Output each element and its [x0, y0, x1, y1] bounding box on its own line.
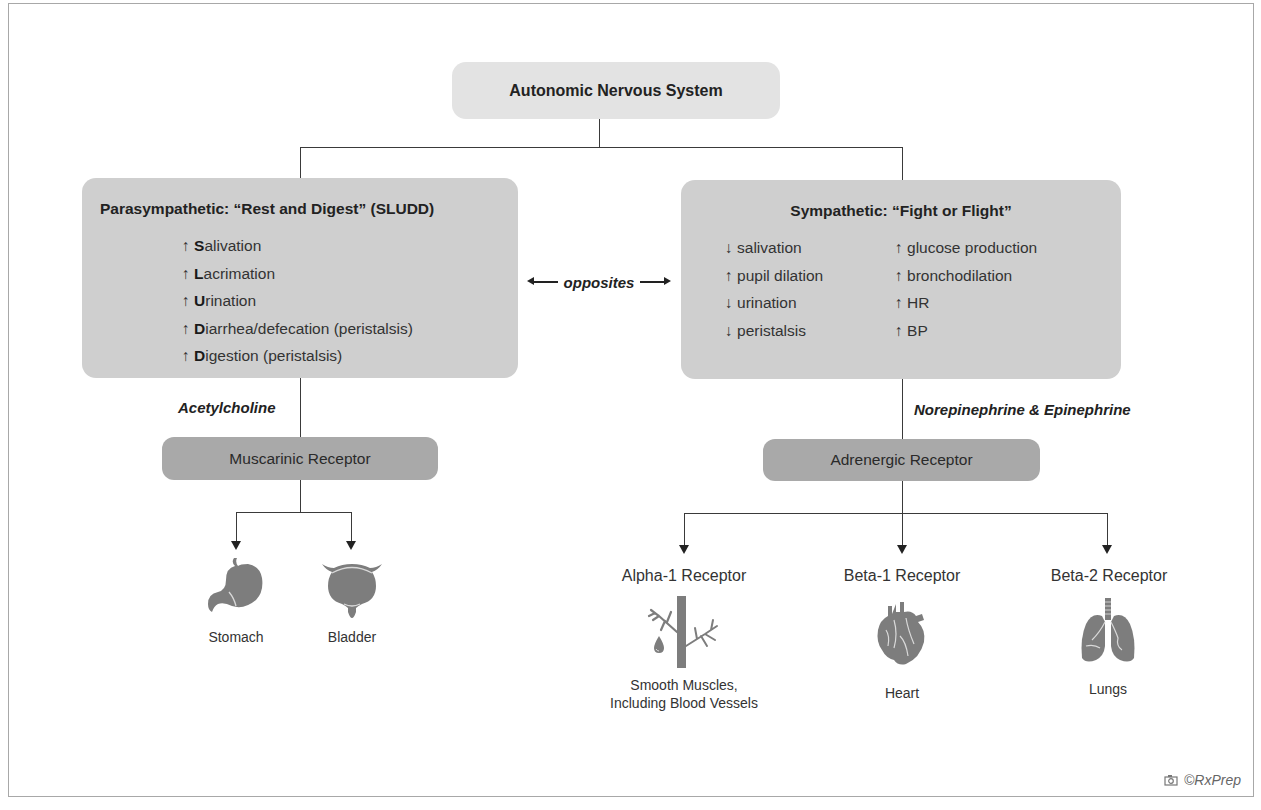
- arrow-right-icon: [640, 281, 666, 283]
- arrowhead-icon: [897, 545, 907, 554]
- heart-target: Heart: [852, 600, 952, 702]
- connector-para-to-receptor: [300, 378, 301, 437]
- connector-to-bladder: [351, 512, 352, 542]
- smooth-muscle-target: Smooth Muscles, Including Blood Vessels: [594, 594, 774, 712]
- blood-vessel-icon: [645, 594, 723, 670]
- adrenergic-receptor-box: Adrenergic Receptor: [763, 439, 1040, 481]
- diagram-title: Autonomic Nervous System: [509, 82, 722, 100]
- parasympathetic-heading: Parasympathetic: “Rest and Digest” (SLUD…: [100, 200, 434, 218]
- sympathetic-effects-left: ↓ salivation ↑ pupil dilation ↓ urinatio…: [725, 234, 823, 344]
- connector-to-sympathetic: [902, 147, 903, 180]
- stomach-target: Stomach: [196, 556, 276, 646]
- sympathetic-heading: Sympathetic: “Fight or Flight”: [681, 202, 1121, 220]
- credit-label: ©RxPrep: [1184, 772, 1241, 788]
- connector-to-alpha1: [684, 513, 685, 546]
- connector-to-parasympathetic: [300, 147, 301, 178]
- sludd-item: ↑ Diarrhea/defecation (peristalsis): [182, 315, 413, 343]
- opposites-relation: opposites: [524, 271, 674, 293]
- effect-item: ↑ bronchodilation: [895, 262, 1037, 290]
- stomach-label: Stomach: [208, 628, 263, 646]
- connector-musc-down: [300, 480, 301, 513]
- lungs-icon: [1078, 596, 1138, 668]
- sludd-item: ↑ Digestion (peristalsis): [182, 342, 413, 370]
- connector-musc-horizontal: [236, 512, 352, 513]
- bladder-target: Bladder: [312, 558, 392, 646]
- bladder-icon: [320, 558, 384, 620]
- opposites-label: opposites: [564, 274, 635, 291]
- alpha1-receptor-label: Alpha-1 Receptor: [604, 567, 764, 585]
- sludd-item: ↑ Lacrimation: [182, 260, 413, 288]
- effect-item: ↓ salivation: [725, 234, 823, 262]
- arrowhead-icon: [346, 541, 356, 550]
- norepinephrine-epinephrine-label: Norepinephrine & Epinephrine: [914, 401, 1131, 418]
- arrow-left-icon: [532, 281, 558, 283]
- bladder-label: Bladder: [328, 628, 376, 646]
- connector-branch-horizontal: [300, 147, 903, 148]
- muscarinic-receptor-box: Muscarinic Receptor: [162, 437, 438, 480]
- camera-icon: [1164, 774, 1178, 786]
- heart-label: Heart: [885, 684, 919, 702]
- parasympathetic-box: Parasympathetic: “Rest and Digest” (SLUD…: [82, 178, 518, 378]
- acetylcholine-label: Acetylcholine: [178, 399, 276, 416]
- sludd-list: ↑ Salivation ↑ Lacrimation ↑ Urination ↑…: [182, 232, 413, 370]
- sludd-item: ↑ Urination: [182, 287, 413, 315]
- sympathetic-effects-right: ↑ glucose production ↑ bronchodilation ↑…: [895, 234, 1037, 344]
- lungs-target: Lungs: [1058, 596, 1158, 698]
- effect-item: ↑ BP: [895, 317, 1037, 345]
- smooth-muscle-label-line1: Smooth Muscles,: [630, 676, 737, 694]
- arrowhead-icon: [231, 541, 241, 550]
- connector-to-stomach: [236, 512, 237, 542]
- arrowhead-icon: [1102, 545, 1112, 554]
- connector-adr-horizontal: [684, 513, 1108, 514]
- connector-title-down: [599, 119, 600, 148]
- effect-item: ↑ glucose production: [895, 234, 1037, 262]
- effect-item: ↑ HR: [895, 289, 1037, 317]
- connector-to-beta2: [1107, 513, 1108, 546]
- lungs-label: Lungs: [1089, 680, 1127, 698]
- adrenergic-receptor-label: Adrenergic Receptor: [830, 451, 972, 469]
- effect-item: ↑ pupil dilation: [725, 262, 823, 290]
- stomach-icon: [204, 556, 268, 618]
- connector-symp-to-receptor: [902, 379, 903, 439]
- sludd-item: ↑ Salivation: [182, 232, 413, 260]
- title-box: Autonomic Nervous System: [452, 62, 780, 119]
- beta2-receptor-label: Beta-2 Receptor: [1029, 567, 1189, 585]
- beta1-receptor-label: Beta-1 Receptor: [822, 567, 982, 585]
- effect-item: ↓ peristalsis: [725, 317, 823, 345]
- smooth-muscle-label-line2: Including Blood Vessels: [610, 694, 758, 712]
- heart-icon: [872, 600, 932, 666]
- muscarinic-receptor-label: Muscarinic Receptor: [229, 450, 370, 468]
- sympathetic-box: Sympathetic: “Fight or Flight” ↓ salivat…: [681, 180, 1121, 379]
- arrowhead-icon: [679, 545, 689, 554]
- credit: ©RxPrep: [1164, 772, 1241, 788]
- effect-item: ↓ urination: [725, 289, 823, 317]
